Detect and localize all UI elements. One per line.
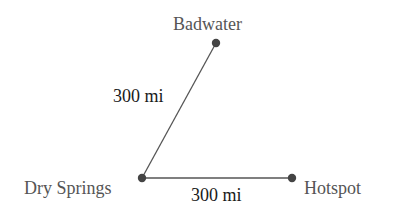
node-hotspot-label: Hotspot bbox=[304, 178, 361, 198]
node-dry-springs-label: Dry Springs bbox=[24, 178, 112, 198]
edge-hotspot-distance-label: 300 mi bbox=[191, 185, 242, 205]
edge-dry-springs-badwater bbox=[142, 43, 216, 178]
edge-badwater-distance-label: 300 mi bbox=[113, 86, 164, 106]
diagram-svg: Badwater Dry Springs Hotspot 300 mi 300 … bbox=[0, 0, 393, 217]
map-diagram: Badwater Dry Springs Hotspot 300 mi 300 … bbox=[0, 0, 393, 217]
node-dry-springs-dot bbox=[138, 174, 146, 182]
node-hotspot-dot bbox=[288, 174, 296, 182]
node-badwater-label: Badwater bbox=[173, 14, 242, 34]
node-badwater-dot bbox=[212, 39, 220, 47]
